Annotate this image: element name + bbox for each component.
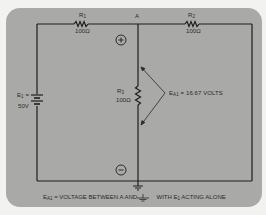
ground-icon [133, 186, 143, 190]
minus-polarity-icon [116, 165, 126, 175]
measurement-label: EA1 = 16.67 VOLTS [169, 90, 223, 98]
circuit-wiring [0, 0, 266, 215]
battery-e1-icon [31, 95, 43, 104]
resistor-r2-icon [185, 22, 199, 27]
r2-value: 100Ω [186, 28, 201, 35]
e1-label: E1 = [17, 92, 29, 100]
r3-label: R3 [117, 88, 124, 96]
r1-label: R1 [79, 12, 86, 20]
plus-polarity-icon [116, 35, 126, 45]
e1-value: 50V [18, 103, 29, 110]
node-a-label: A [135, 13, 139, 20]
circuit-figure: R1 100Ω A R2 100Ω R3 100Ω E1 = 50V EA1 =… [0, 0, 266, 215]
r2-label: R2 [188, 12, 195, 20]
r3-value: 100Ω [116, 97, 131, 104]
measurement-arrows-icon [141, 67, 165, 125]
resistor-r3-icon [136, 86, 141, 105]
figure-caption: EA1 = VOLTAGE BETWEEN A AND WITH E1 ACTI… [43, 194, 226, 201]
resistor-r1-icon [74, 22, 88, 27]
r1-value: 100Ω [75, 28, 90, 35]
